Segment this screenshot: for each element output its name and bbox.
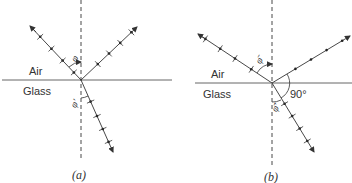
air-label-b: Air [211,68,225,80]
air-label-a: Air [29,65,43,77]
refracted-polarization-b-tick [281,102,288,106]
refracted-polarization-b-tick [304,139,311,143]
incident-angle-arc-b [257,64,272,73]
refracted-angle-label-a: φ' [68,97,82,110]
reflected-polarization-b-dot [310,58,313,61]
refracted-angle-label-b: φ̄' [269,101,283,114]
refracted-polarization-b-tick [289,114,296,118]
caption-b: (b) [264,170,278,183]
caption-a: (a) [72,168,86,182]
refracted-polarization-b-tick [296,126,303,130]
right-angle-label-b: 90° [290,88,307,100]
polarization-marks-a [37,29,134,143]
glass-label-b: Glass [203,88,232,100]
incident-ray-arrow-b [198,34,204,38]
incident-polarization-b-tick [203,36,207,43]
panel-b: Air Glass φ̄ 90° φ̄' (b) [195,0,352,183]
incident-polarization-b-tick [218,45,222,52]
reflected-polarization-b-dot [294,68,297,71]
right-angle-arc-b [281,74,290,98]
refracted-angle-arc-a [81,96,88,98]
refracted-angle-arc-b [272,100,281,102]
incident-ray-arrow-a [30,26,36,32]
reflection-refraction-diagram: Air Glass φ φ' (a) Air Glass φ̄ 90° φ̄' … [0,0,352,183]
incident-angle-label-b: φ̄ [253,53,267,66]
incident-polarization-b-tick [249,66,253,73]
reflected-polarization-b-dot [325,49,328,52]
glass-label-a: Glass [23,85,52,97]
panel-a: Air Glass φ φ' (a) [2,0,172,182]
reflected-polarization-b-dot [341,39,344,42]
incident-polarization-b-tick [233,55,237,62]
